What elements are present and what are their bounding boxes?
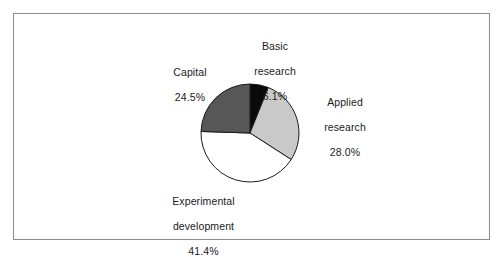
pie-value-capital: 24.5%: [148, 91, 232, 103]
pie-label-capital: Capital 24.5%: [148, 54, 232, 116]
pie-value-applied-research: 28.0%: [305, 146, 385, 158]
pie-label-capital-line1: Capital: [148, 66, 232, 78]
pie-value-experimental-development: 41.4%: [141, 245, 266, 257]
pie-label-experimental-development-line1: Experimental: [141, 195, 266, 207]
pie-label-applied-research-line1: Applied: [305, 96, 385, 108]
pie-label-basic-research-line1: Basic: [231, 40, 319, 52]
pie-label-basic-research-line2: research: [231, 65, 319, 77]
pie-label-applied-research-line2: research: [305, 121, 385, 133]
pie-label-experimental-development: Experimental development 41.4%: [141, 183, 266, 257]
figure-root: Basic research 6.1% Applied research 28.…: [0, 0, 503, 257]
pie-label-applied-research: Applied research 28.0%: [305, 84, 385, 171]
pie-label-experimental-development-line2: development: [141, 220, 266, 232]
